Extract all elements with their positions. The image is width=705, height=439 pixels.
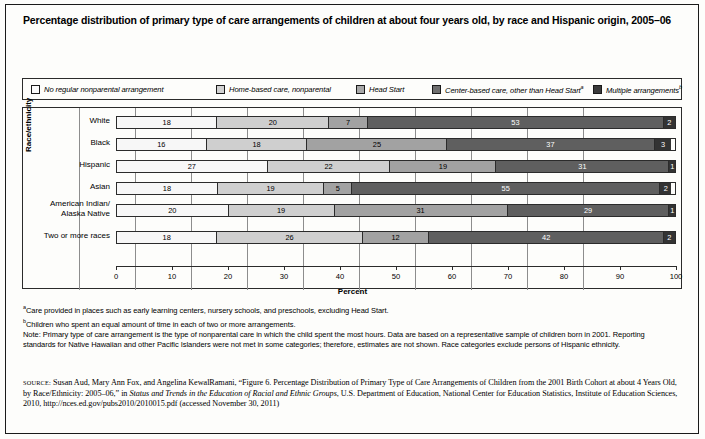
legend-label: No regular nonparental arrangement xyxy=(44,85,163,94)
page-title: Percentage distribution of primary type … xyxy=(23,14,673,28)
bar-segment: 19 xyxy=(218,183,324,194)
x-axis-tick xyxy=(284,266,285,270)
bar-value-label: 2 xyxy=(667,234,671,241)
legend-item-1: Home-based care, nonparental xyxy=(216,85,331,94)
x-axis-tick xyxy=(172,266,173,270)
bar-value-label: 18 xyxy=(252,141,260,148)
bar-segment: 42 xyxy=(429,232,663,243)
stacked-bars-group: 1820753216182537327221931118195552201931… xyxy=(116,114,676,258)
bar-value-label: 18 xyxy=(163,185,171,192)
legend-swatch-icon xyxy=(356,85,365,94)
x-axis-tick xyxy=(452,266,453,270)
legend-label: Center-based care, other than Head Start… xyxy=(445,84,584,95)
x-axis-tick-label: 100 xyxy=(670,272,683,281)
legend-item-2: Head Start xyxy=(356,85,404,94)
bar-value-label: 1 xyxy=(670,207,674,214)
x-axis-tick-label: 30 xyxy=(280,272,288,281)
x-axis-tick-label: 20 xyxy=(224,272,232,281)
footnote-b: bChildren who spent an equal amount of t… xyxy=(23,316,678,330)
bar-row: 201931291 xyxy=(116,204,676,217)
bar-value-label: 22 xyxy=(324,163,332,170)
legend-swatch-icon xyxy=(216,85,225,94)
y-axis-tick-label: White xyxy=(10,116,110,126)
legend-item-4: Multiple arrangementsb xyxy=(593,84,682,95)
y-axis-tick-label: American Indian/Alaska Native xyxy=(10,199,110,218)
bar-segment: 53 xyxy=(368,117,664,128)
bar-segment: 2 xyxy=(660,183,671,194)
bar-value-label: 7 xyxy=(346,119,350,126)
bar-value-label: 27 xyxy=(188,163,196,170)
figure-page: Percentage distribution of primary type … xyxy=(0,0,705,439)
bar-row: 18195552 xyxy=(116,182,676,195)
bar-row: 272219311 xyxy=(116,160,676,173)
bar-value-label: 20 xyxy=(168,207,176,214)
bar-value-label: 55 xyxy=(502,185,510,192)
bar-value-label: 37 xyxy=(546,141,554,148)
bar-segment: 3 xyxy=(655,139,672,150)
bar-segment: 37 xyxy=(447,139,654,150)
x-axis-tick-label: 90 xyxy=(616,272,624,281)
bar-value-label: 5 xyxy=(336,185,340,192)
x-axis-tick-label: 70 xyxy=(504,272,512,281)
x-axis-tick-label: 50 xyxy=(392,272,400,281)
bar-row: 18207532 xyxy=(116,116,676,129)
bar-segment: 1 xyxy=(669,161,675,172)
y-axis-tick-label: Black xyxy=(10,138,110,148)
bar-segment: 18 xyxy=(207,139,308,150)
general-note: Note: Primary type of care arrangement i… xyxy=(23,330,678,351)
bar-segment: 22 xyxy=(268,161,391,172)
figure-source: SOURCE: Susan Aud, Mary Ann Fox, and Ang… xyxy=(23,378,678,410)
legend-label: Head Start xyxy=(369,85,404,94)
x-axis-tick xyxy=(396,266,397,270)
bar-segment: 26 xyxy=(217,232,362,243)
bar-value-label: 53 xyxy=(511,119,519,126)
bar-value-label: 2 xyxy=(664,185,668,192)
source-publication-title: Status and Trends in the Education of Ra… xyxy=(129,389,336,398)
legend-label: Home-based care, nonparental xyxy=(229,85,331,94)
bar-segment: 1 xyxy=(669,205,675,216)
bar-value-label: 16 xyxy=(157,141,165,148)
x-axis-tick xyxy=(228,266,229,270)
bar-value-label: 19 xyxy=(439,163,447,170)
x-axis-tick-label: 80 xyxy=(560,272,568,281)
legend-footnote-marker: b xyxy=(679,84,682,90)
bar-segment: 18 xyxy=(117,117,217,128)
bar-value-label: 19 xyxy=(277,207,285,214)
x-axis-tick-label: 0 xyxy=(114,272,118,281)
footnote-b-text: Children who spent an equal amount of ti… xyxy=(26,319,296,328)
bar-segment: 31 xyxy=(496,161,669,172)
legend-swatch-icon xyxy=(31,85,40,94)
bar-segment: 20 xyxy=(217,117,329,128)
bar-value-label: 31 xyxy=(417,207,425,214)
footnote-a: aCare provided in places such as early l… xyxy=(23,302,678,316)
y-axis-tick-label: Asian xyxy=(10,182,110,192)
legend-item-3: Center-based care, other than Head Start… xyxy=(432,84,584,95)
x-axis-tick xyxy=(564,266,565,270)
bar-segment: 16 xyxy=(117,139,207,150)
bar-segment: 18 xyxy=(117,232,217,243)
bar-value-label: 26 xyxy=(285,234,293,241)
bar-value-label: 31 xyxy=(578,163,586,170)
footnote-a-text: Care provided in places such as early le… xyxy=(26,306,389,315)
legend-item-0: No regular nonparental arrangement xyxy=(31,85,163,94)
bar-segment: 5 xyxy=(324,183,352,194)
bar-segment: 20 xyxy=(117,205,229,216)
bar-value-label: 3 xyxy=(661,141,665,148)
bar-value-label: 25 xyxy=(373,141,381,148)
y-axis-tick-label: Two or more races xyxy=(10,231,110,241)
x-axis-tick-label: 10 xyxy=(168,272,176,281)
figure-notes: aCare provided in places such as early l… xyxy=(23,302,678,351)
x-axis-tick xyxy=(620,266,621,270)
bar-segment: 55 xyxy=(352,183,660,194)
bar-value-label: 20 xyxy=(269,119,277,126)
bar-value-label: 1 xyxy=(670,163,674,170)
legend-label: Multiple arrangementsb xyxy=(606,84,682,95)
bar-segment: 18 xyxy=(117,183,218,194)
legend-swatch-icon xyxy=(432,85,441,94)
bar-segment: 2 xyxy=(664,117,675,128)
x-axis-title: Percent xyxy=(0,287,705,296)
legend-swatch-icon xyxy=(593,85,602,94)
y-axis-tick-label: Hispanic xyxy=(10,160,110,170)
bar-segment: 27 xyxy=(117,161,268,172)
bar-row: 182612422 xyxy=(116,231,676,244)
